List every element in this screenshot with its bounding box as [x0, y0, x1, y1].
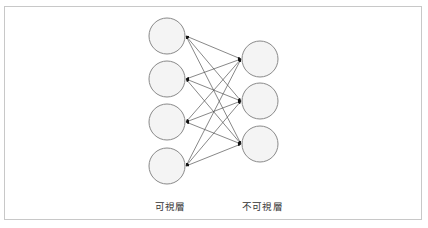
edge-v4-h3	[186, 144, 241, 166]
edges-group	[186, 36, 241, 166]
edge-v4-h2	[186, 101, 241, 166]
nodes-group	[149, 18, 278, 184]
edge-v2-h1	[186, 59, 241, 79]
edge-v3-h2	[186, 101, 241, 122]
visible-node-v4	[149, 148, 185, 184]
visible-node-v3	[149, 104, 185, 140]
visible-node-v2	[149, 61, 185, 97]
hidden-node-h2	[242, 83, 278, 119]
rbm-diagram	[0, 0, 428, 228]
hidden-layer-label: 不可視層	[242, 199, 283, 213]
hidden-node-h1	[242, 41, 278, 77]
hidden-node-h3	[242, 126, 278, 162]
visible-layer-label: 可視層	[155, 199, 186, 213]
visible-node-v1	[149, 18, 185, 54]
edge-v1-h1	[186, 36, 241, 59]
